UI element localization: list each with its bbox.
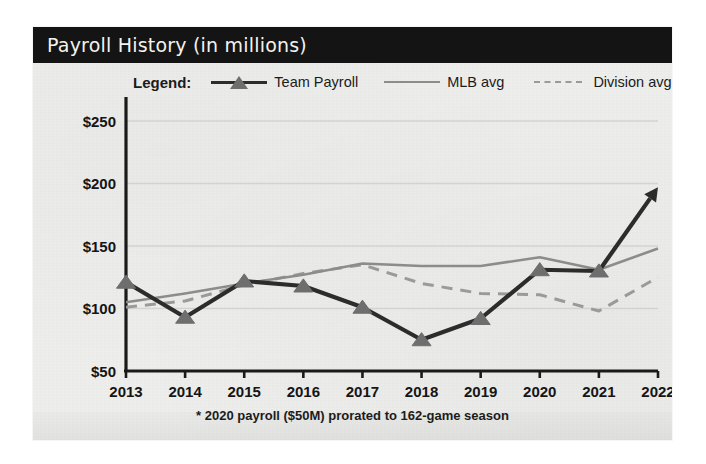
triangle-marker-icon — [230, 76, 248, 89]
x-tick-label: 2015 — [228, 383, 261, 400]
y-tick-label: $50 — [91, 363, 116, 380]
x-tick-label: 2019 — [464, 383, 497, 400]
x-tick-label: 2014 — [168, 383, 202, 400]
chart-series-layer — [117, 187, 659, 345]
card-bottom-band — [33, 412, 672, 440]
y-tick-label: $100 — [83, 300, 116, 317]
chart-title-bar: Payroll History (in millions) — [33, 27, 672, 63]
x-tick-label: 2013 — [109, 383, 142, 400]
legend-item-mlb-avg: MLB avg — [384, 74, 504, 90]
x-tick-label: 2016 — [287, 383, 320, 400]
screenshot-page: Payroll History (in millions) Legend: Te… — [0, 0, 706, 464]
legend-item-division-avg: Division avg — [530, 74, 671, 90]
x-tick-label: 2017 — [346, 383, 379, 400]
solid-line-icon — [384, 81, 440, 83]
legend-item-team-payroll: Team Payroll — [211, 74, 358, 90]
y-tick-label: $200 — [83, 175, 116, 192]
legend-swatch-team-payroll — [211, 74, 267, 90]
x-tick-label: 2020 — [523, 383, 556, 400]
x-tick-label: 2018 — [405, 383, 438, 400]
legend-label-mlb-avg: MLB avg — [447, 74, 504, 90]
legend-swatch-mlb-avg — [384, 74, 440, 90]
line-chart-svg: $50$100$150$200$250 20132014201520162017… — [33, 93, 672, 413]
chart-axes — [124, 97, 658, 371]
legend-title: Legend: — [133, 74, 191, 91]
x-tick-label: 2021 — [582, 383, 615, 400]
legend-label-team-payroll: Team Payroll — [274, 74, 358, 90]
legend-swatch-division-avg — [530, 74, 586, 90]
data-point-marker-team-payroll — [117, 275, 136, 288]
legend-label-division-avg: Division avg — [593, 74, 671, 90]
page-title: Payroll History (in millions) — [33, 34, 307, 56]
y-tick-label: $250 — [83, 113, 116, 130]
x-tick-label: 2022 — [641, 383, 672, 400]
y-tick-label: $150 — [83, 238, 116, 255]
chart-gridlines — [126, 121, 658, 309]
chart-card: Payroll History (in millions) Legend: Te… — [33, 27, 672, 440]
plot-area: $50$100$150$200$250 20132014201520162017… — [33, 93, 672, 413]
dashed-line-icon — [534, 81, 582, 83]
x-axis-tick-labels: 2013201420152016201720182019202020212022 — [109, 383, 672, 400]
y-axis-tick-labels: $50$100$150$200$250 — [83, 113, 116, 380]
